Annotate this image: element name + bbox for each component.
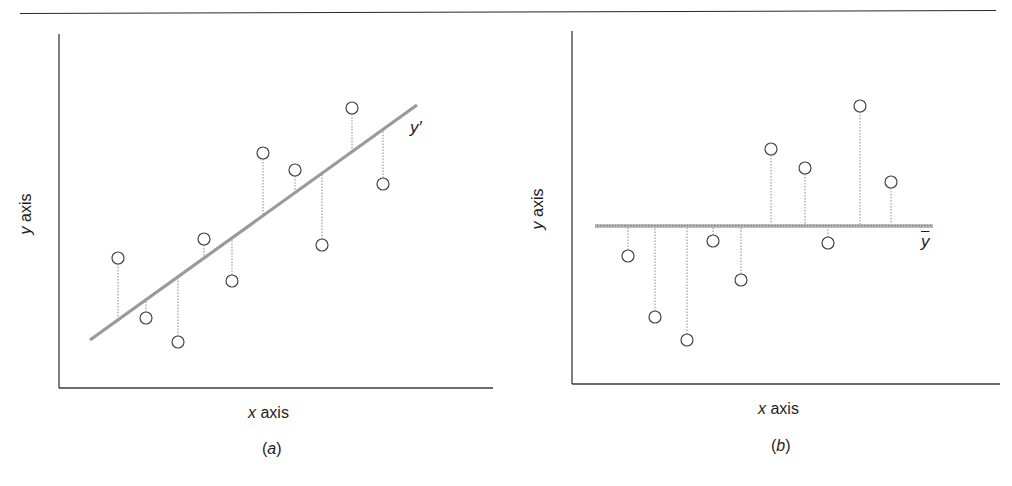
- data-point-marker: [346, 102, 358, 114]
- panel-b-x-axis-label: x axis: [758, 400, 799, 418]
- panel-a-regression: [59, 34, 493, 388]
- panel-b-mean-label: y: [921, 232, 930, 252]
- data-point-marker: [172, 336, 184, 348]
- data-point-marker: [707, 235, 719, 247]
- panel-b-y-axis-label: y axis: [529, 189, 547, 230]
- data-point-marker: [765, 143, 777, 155]
- panel-b-y-var: y: [529, 221, 546, 229]
- panel-b-caption-letter: b: [776, 437, 785, 454]
- panel-a-x-word: axis: [260, 404, 288, 421]
- panel-a-y-var: y: [17, 226, 34, 234]
- data-point-marker: [799, 162, 811, 174]
- panel-a-x-var: x: [248, 404, 256, 421]
- panel-b-mean: [572, 31, 1000, 384]
- data-point-marker: [735, 274, 747, 286]
- data-point-marker: [649, 311, 661, 323]
- data-point-marker: [316, 239, 328, 251]
- panel-b-data-points: [622, 100, 897, 346]
- panel-b-deviation-lines: [628, 112, 891, 334]
- panel-b-y-word: axis: [529, 189, 546, 217]
- panel-a-y-axis-label: y axis: [17, 194, 35, 235]
- panel-b-x-var: x: [758, 400, 766, 417]
- panel-a-caption-letter: a: [267, 440, 276, 457]
- panel-a-fit-label: y′: [410, 118, 422, 138]
- panel-a-caption: (a): [262, 440, 282, 458]
- panel-b-y-bar: y: [921, 232, 930, 251]
- panel-b-x-word: axis: [770, 400, 798, 417]
- figure-plots: [0, 0, 1012, 486]
- data-point-marker: [226, 275, 238, 287]
- data-point-marker: [112, 252, 124, 264]
- data-point-marker: [257, 147, 269, 159]
- data-point-marker: [681, 334, 693, 346]
- panel-a-y-prime: y′: [410, 118, 422, 137]
- data-point-marker: [822, 237, 834, 249]
- data-point-marker: [377, 178, 389, 190]
- data-point-marker: [198, 233, 210, 245]
- panel-a-regression-line: [90, 105, 417, 340]
- data-point-marker: [289, 164, 301, 176]
- panel-a-x-axis-label: x axis: [248, 404, 289, 422]
- panel-a-y-word: axis: [17, 194, 34, 222]
- data-point-marker: [622, 250, 634, 262]
- data-point-marker: [140, 312, 152, 324]
- data-point-marker: [854, 100, 866, 112]
- panel-b-mean-line: [595, 224, 933, 228]
- data-point-marker: [885, 176, 897, 188]
- panel-b-caption: (b): [771, 437, 791, 455]
